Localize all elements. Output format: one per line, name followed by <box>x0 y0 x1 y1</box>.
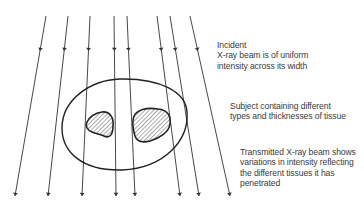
transmitted-label-line: Transmitted X-ray beam shows <box>240 147 356 157</box>
x-ray-line <box>48 16 68 196</box>
arrowhead-icon <box>126 48 131 51</box>
transmitted-label-line: penetrated <box>240 178 356 188</box>
subject-label-line: types and thicknesses of tissue <box>230 111 346 121</box>
x-ray-line <box>170 16 199 196</box>
arrowhead-icon <box>80 193 85 196</box>
arrowhead-icon <box>177 193 182 196</box>
x-ray-line <box>114 16 116 196</box>
transmitted-beam-label: Transmitted X-ray beam shows variations … <box>240 147 356 189</box>
arrowhead-icon <box>114 193 119 196</box>
arrowhead-icon <box>112 48 117 51</box>
arrowhead-icon <box>132 193 137 196</box>
tissue-region-large <box>133 108 170 142</box>
arrowhead-icon <box>38 47 43 51</box>
x-ray-line <box>157 16 180 196</box>
subject-label-line: Subject containing different <box>230 101 346 111</box>
incident-beam-label: Incident X-ray beam is of uniform intens… <box>217 40 308 71</box>
tissue-region-small <box>86 112 113 137</box>
x-ray-line <box>15 16 46 196</box>
transmitted-label-line: the different tissues it has <box>240 168 356 178</box>
arrowhead-icon <box>173 47 178 51</box>
arrowhead-icon <box>86 48 91 51</box>
arrowhead-icon <box>13 192 18 196</box>
arrowhead-icon <box>196 192 201 196</box>
arrowhead-icon <box>46 193 51 196</box>
incident-label-line: X-ray beam is of uniform <box>217 50 308 60</box>
subject-label: Subject containing different types and t… <box>230 101 346 122</box>
x-ray-beam-lines <box>13 16 231 196</box>
arrowhead-icon <box>159 48 164 51</box>
arrowhead-icon <box>227 192 232 196</box>
incident-label-line: intensity across its width <box>217 61 308 71</box>
arrowhead-icon <box>195 47 200 51</box>
transmitted-label-line: variations in intensity reflecting <box>240 157 356 167</box>
arrowhead-icon <box>62 48 67 51</box>
incident-label-line: Incident <box>217 40 308 50</box>
x-ray-line <box>82 16 90 196</box>
